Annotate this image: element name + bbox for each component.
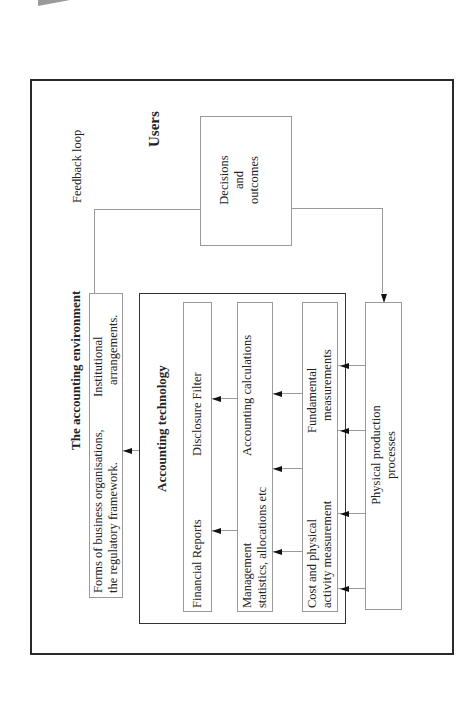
institutional-right-line1: Institutional: [91, 337, 106, 397]
arrow-up-icon: [340, 512, 349, 518]
arrow-up-icon: [212, 529, 221, 535]
arrow-up-icon: [273, 392, 282, 398]
arrow-up-icon: [340, 587, 349, 593]
cost-line2: activity measurement: [320, 501, 335, 608]
arrow-up-icon: [123, 449, 132, 455]
page-corner-fold: [38, 0, 70, 6]
management-statistics-box: Management statistics, allocations etc A…: [237, 302, 273, 612]
fundamental-line2: measurements: [320, 349, 335, 421]
institutional-right-line2: arrangements.: [106, 315, 121, 385]
feedback-line-vertical: [94, 209, 200, 210]
decisions-to-physical-line: [382, 208, 383, 293]
institutional-arrangements-box: Forms of business organisations, the reg…: [89, 293, 123, 598]
accounting-calculations-label: Accounting calculations: [240, 335, 255, 456]
fundamental-line1: Fundamental: [305, 368, 320, 433]
cost-line1: Cost and physical: [305, 519, 320, 608]
arrow-up-icon: [273, 550, 282, 556]
users-label: Users: [147, 111, 162, 147]
financial-reports-label: Financial Reports: [190, 519, 205, 608]
decisions-line1: Decisions: [217, 115, 232, 245]
decisions-line2: and: [232, 115, 247, 245]
diagram-title: The accounting environment: [68, 291, 83, 450]
disclosure-filter-label: Disclosure Filter: [190, 372, 205, 456]
arrow-up-icon: [340, 364, 349, 370]
cost-measurement-box: Cost and physical activity measurement F…: [302, 302, 338, 612]
arrow-up-icon: [273, 467, 282, 473]
feedback-loop-label: Feedback loop: [70, 130, 85, 203]
feedback-line-horizontal: [94, 210, 95, 293]
management-line2: statistics, allocations etc: [255, 487, 270, 608]
arrow-up-icon: [340, 429, 349, 435]
physical-line1: Physical production: [369, 301, 384, 609]
arrow-up-icon: [212, 397, 221, 403]
institutional-left-line1: Forms of business organisations,: [91, 429, 106, 593]
financial-reports-box: Financial Reports Disclosure Filter: [183, 302, 212, 612]
rotated-diagram-page: The accounting environment Users Feedbac…: [30, 79, 454, 655]
institutional-left-line2: the regulatory framework.: [106, 462, 121, 593]
decisions-down-line: [292, 208, 382, 209]
management-line1: Management: [240, 543, 255, 608]
decisions-outcomes-box: Decisions and outcomes: [200, 116, 292, 246]
physical-production-box: Physical production processes: [365, 302, 402, 610]
accounting-technology-title: Accounting technology: [154, 365, 169, 492]
decisions-line3: outcomes: [247, 115, 262, 245]
physical-line2: processes: [384, 301, 399, 609]
